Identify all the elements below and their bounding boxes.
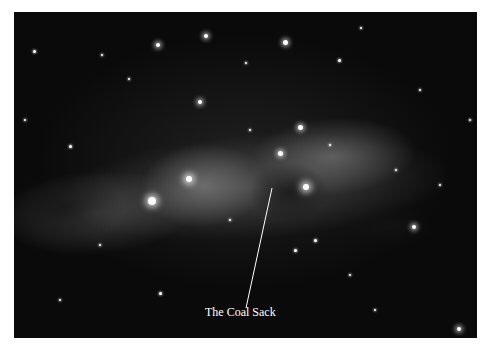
star bbox=[69, 145, 72, 148]
star bbox=[198, 100, 202, 104]
star bbox=[294, 249, 297, 252]
star bbox=[148, 197, 156, 205]
star bbox=[314, 239, 317, 242]
star bbox=[204, 34, 208, 38]
star bbox=[33, 50, 36, 53]
star bbox=[283, 40, 288, 45]
coal-sack-nebula bbox=[249, 162, 329, 222]
star bbox=[298, 125, 303, 130]
star bbox=[24, 119, 26, 121]
star bbox=[156, 43, 160, 47]
star bbox=[329, 144, 331, 146]
star bbox=[303, 184, 309, 190]
star bbox=[457, 327, 461, 331]
star bbox=[278, 151, 283, 156]
star bbox=[249, 129, 251, 131]
coal-sack-label: The Coal Sack bbox=[205, 305, 276, 320]
milky-way-photo bbox=[14, 12, 477, 338]
dark-lane-right bbox=[344, 207, 434, 247]
star bbox=[186, 176, 192, 182]
star bbox=[412, 225, 416, 229]
star bbox=[338, 59, 341, 62]
star bbox=[159, 292, 162, 295]
star bbox=[374, 309, 376, 311]
